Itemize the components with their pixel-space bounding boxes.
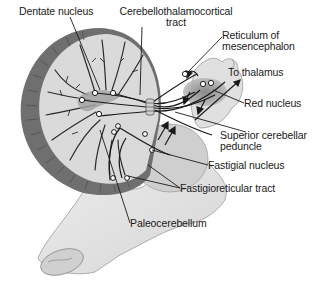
label-cerebellothalamocortical-tract: Cerebellothalamocortical tract: [114, 6, 238, 28]
label-line: mesencephalon: [222, 41, 295, 52]
peduncle-bundle: [146, 99, 154, 115]
label-fastigioreticular-tract: Fastigioreticular tract: [180, 183, 275, 194]
label-reticulum-of-mesencephalon: Reticulum of mesencephalon: [222, 30, 295, 52]
label-to-thalamus: To thalamus: [228, 67, 284, 78]
cerebellum-diagram: Dentate nucleus Cerebellothalamocortical…: [0, 0, 317, 282]
label-fastigial-nucleus: Fastigial nucleus: [208, 160, 285, 171]
label-line: tract: [114, 17, 238, 28]
label-dentate-nucleus: Dentate nucleus: [19, 6, 93, 17]
label-paleocerebellum: Paleocerebellum: [130, 218, 207, 229]
cerebellum-hemisphere: [21, 28, 161, 195]
label-red-nucleus: Red nucleus: [244, 98, 301, 109]
label-line: peduncle: [220, 141, 307, 152]
label-superior-cerebellar-peduncle: Superior cerebellar peduncle: [220, 130, 307, 152]
